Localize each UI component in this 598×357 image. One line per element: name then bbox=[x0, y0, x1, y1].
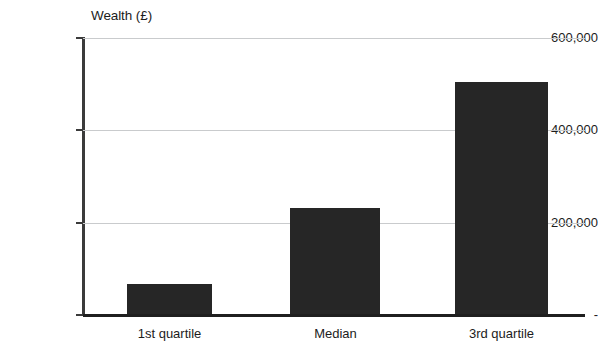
gridline-600000 bbox=[83, 38, 585, 39]
bar-chart: Wealth (£) 600,000 400,000 200,000 - 1st… bbox=[0, 0, 598, 357]
category-axis-line bbox=[83, 314, 585, 317]
plot-area bbox=[83, 38, 585, 315]
bar-3rd-quartile bbox=[455, 82, 548, 315]
category-axis-labels: 1st quartile Median 3rd quartile bbox=[83, 322, 585, 352]
category-label-median: Median bbox=[268, 326, 403, 341]
category-label-3rd-quartile: 3rd quartile bbox=[434, 326, 569, 341]
bar-median bbox=[290, 208, 380, 315]
bar-1st-quartile bbox=[127, 284, 212, 315]
value-axis-title: Wealth (£) bbox=[91, 8, 152, 23]
category-label-1st-quartile: 1st quartile bbox=[102, 326, 237, 341]
